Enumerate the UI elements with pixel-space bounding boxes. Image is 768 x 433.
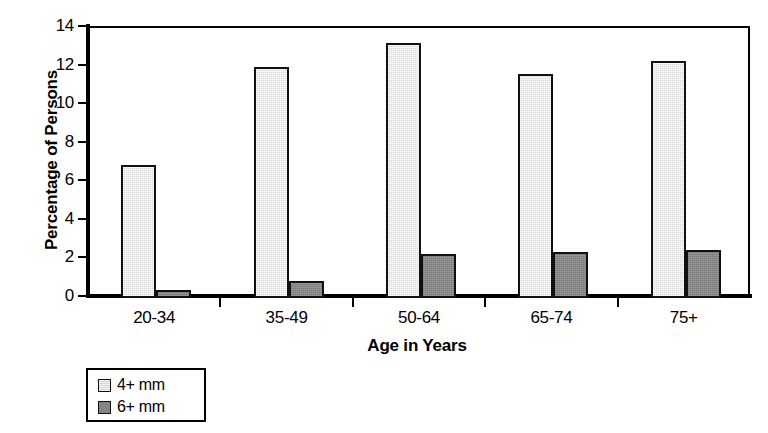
x-tick-mark — [484, 296, 486, 307]
bar-65-74-6-mm — [553, 252, 588, 298]
x-tick-mark — [352, 296, 354, 307]
y-tick-label-text: 8 — [34, 133, 74, 150]
legend-item: 6+ mm — [98, 396, 204, 418]
bar-75plus-6-mm — [686, 250, 721, 298]
y-tick-mark — [78, 102, 88, 104]
legend-label: 4+ mm — [117, 377, 165, 393]
y-tick-mark — [78, 141, 88, 143]
y-tick-label-text: 6 — [34, 171, 74, 188]
y-tick-label: 6 — [26, 171, 74, 188]
x-category-label: 20-34 — [88, 308, 220, 328]
bar-20-34-6-mm — [156, 290, 191, 298]
x-axis-title: Age in Years — [0, 336, 768, 356]
plot-area — [88, 26, 750, 296]
bar-50-64-4-mm — [386, 43, 421, 298]
x-category-label: 65-74 — [485, 308, 617, 328]
y-tick-label-text: 2 — [34, 248, 74, 265]
y-tick-label: 2 — [26, 248, 74, 265]
bar-75plus-4-mm — [651, 61, 686, 298]
y-tick-label: 8 — [26, 133, 74, 150]
bar-65-74-4-mm — [518, 74, 553, 298]
y-tick-label-text: 10 — [34, 94, 74, 111]
y-tick-mark — [78, 179, 88, 181]
bar-chart-figure: Percentage of Persons 02468101214 20-343… — [0, 0, 768, 433]
legend-swatch-icon — [98, 379, 111, 392]
bar-20-34-4-mm — [121, 165, 156, 298]
y-tick-label-text: 0 — [34, 287, 74, 304]
y-tick-mark — [78, 25, 88, 27]
y-tick-label-text: 14 — [34, 17, 74, 34]
bar-35-49-6-mm — [289, 281, 324, 298]
x-category-label: 35-49 — [220, 308, 352, 328]
y-tick-label: 12 — [26, 56, 74, 73]
bar-35-49-4-mm — [254, 67, 289, 298]
x-tick-mark — [219, 296, 221, 307]
y-tick-mark — [78, 64, 88, 66]
y-tick-mark — [78, 295, 88, 297]
bar-50-64-6-mm — [421, 254, 456, 298]
x-category-label: 75+ — [618, 308, 750, 328]
x-tick-mark — [617, 296, 619, 307]
y-tick-label: 10 — [26, 94, 74, 111]
legend-swatch-icon — [98, 401, 111, 414]
y-tick-label-text: 12 — [34, 56, 74, 73]
x-category-label: 50-64 — [353, 308, 485, 328]
y-tick-label: 0 — [26, 287, 74, 304]
y-tick-mark — [78, 218, 88, 220]
y-tick-mark — [78, 256, 88, 258]
y-tick-label: 14 — [26, 17, 74, 34]
legend: 4+ mm 6+ mm — [86, 368, 206, 422]
y-tick-label-text: 4 — [34, 210, 74, 227]
y-tick-label: 4 — [26, 210, 74, 227]
legend-label: 6+ mm — [117, 399, 165, 415]
legend-item: 4+ mm — [98, 374, 204, 396]
